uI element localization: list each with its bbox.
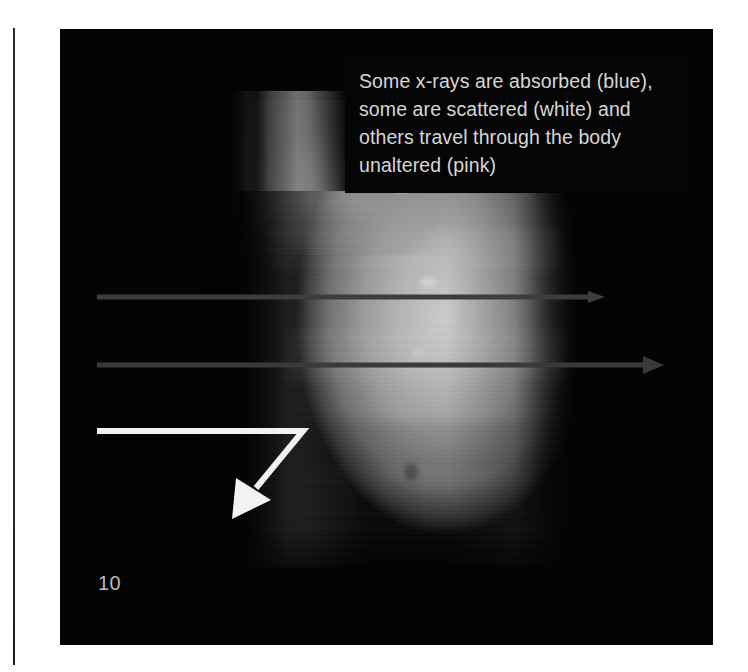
torso-anatomy-detail [413,347,424,358]
page-number: 10 [98,572,121,594]
torso-tissue-band [300,421,550,469]
torso-anatomy-detail [420,277,436,288]
page-gutter-rule [13,28,15,665]
caption-block: Some x-rays are absorbed (blue), some ar… [345,55,690,193]
caption-line-3: others travel through the body [359,123,676,151]
slide-panel: Some x-rays are absorbed (blue), some ar… [60,29,713,645]
caption-line-2: some are scattered (white) and [359,95,676,123]
scan-vignette-left [200,89,310,589]
scan-vignette-bottom [200,529,640,589]
caption-line-1: Some x-rays are absorbed (blue), [359,67,676,95]
torso-tissue-band [270,229,560,269]
torso-anatomy-detail [404,463,418,481]
torso-tissue-band [285,329,565,381]
caption-line-4: unaltered (pink) [359,151,676,179]
